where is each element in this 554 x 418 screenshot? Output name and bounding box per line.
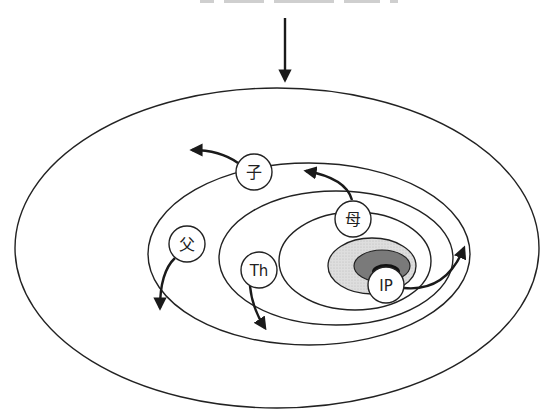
child-arrow [192, 150, 238, 163]
node-th-label: Th [249, 262, 269, 280]
node-ip-label: IP [379, 277, 392, 295]
node-mother-label: 母 [345, 210, 361, 229]
node-ip: IP [368, 267, 404, 303]
node-th: Th [241, 252, 277, 288]
family-systems-diagram: 子 母 父 Th IP [0, 0, 554, 418]
node-father-label: 父 [179, 235, 195, 254]
node-father: 父 [169, 226, 205, 262]
node-child: 子 [236, 154, 272, 190]
father-arrow [160, 258, 175, 308]
node-mother: 母 [335, 201, 371, 237]
node-child-label: 子 [246, 163, 262, 182]
mother-arrow [306, 171, 352, 200]
outer-ring [15, 88, 539, 408]
